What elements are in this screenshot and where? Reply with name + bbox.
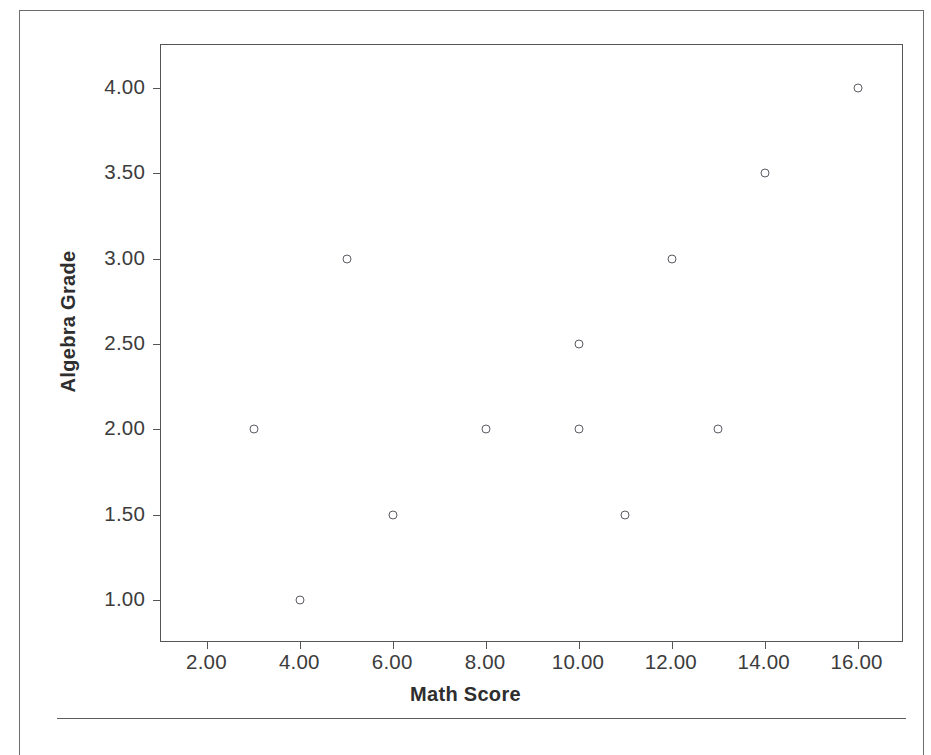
data-point bbox=[296, 596, 305, 605]
data-point bbox=[574, 425, 583, 434]
y-axis-tick bbox=[153, 88, 161, 89]
y-axis-tick bbox=[153, 515, 161, 516]
x-axis-tick bbox=[486, 641, 487, 649]
x-axis-tick-label: 16.00 bbox=[830, 650, 882, 674]
data-point bbox=[249, 425, 258, 434]
x-axis-title: Math Score bbox=[0, 683, 931, 706]
data-point bbox=[853, 83, 862, 92]
data-point bbox=[667, 254, 676, 263]
scatter-markers-layer bbox=[161, 45, 902, 641]
y-axis-tick bbox=[153, 259, 161, 260]
y-axis-tick-label: 2.00 bbox=[104, 416, 145, 440]
x-axis-tick bbox=[672, 641, 673, 649]
y-axis-tick bbox=[153, 173, 161, 174]
y-axis-tick bbox=[153, 600, 161, 601]
data-point bbox=[342, 254, 351, 263]
x-axis-tick-label: 8.00 bbox=[465, 650, 506, 674]
data-point bbox=[389, 510, 398, 519]
data-point bbox=[574, 340, 583, 349]
plot-area bbox=[160, 44, 903, 642]
y-axis-tick bbox=[153, 344, 161, 345]
y-axis-tick bbox=[153, 429, 161, 430]
y-axis-tick-label: 2.50 bbox=[104, 331, 145, 355]
x-axis-tick bbox=[765, 641, 766, 649]
x-axis-tick-label: 14.00 bbox=[738, 650, 790, 674]
y-axis-tick-label: 3.00 bbox=[104, 246, 145, 270]
x-axis-tick-label: 2.00 bbox=[186, 650, 227, 674]
x-axis-tick bbox=[207, 641, 208, 649]
x-axis-tick bbox=[300, 641, 301, 649]
data-point bbox=[482, 425, 491, 434]
x-axis-tick bbox=[858, 641, 859, 649]
data-point bbox=[621, 510, 630, 519]
x-axis-tick-label: 12.00 bbox=[645, 650, 697, 674]
y-axis-tick-label: 1.50 bbox=[104, 502, 145, 526]
page-footer-rule bbox=[57, 718, 906, 719]
data-point bbox=[714, 425, 723, 434]
y-axis-tick-label: 4.00 bbox=[104, 75, 145, 99]
x-axis-tick-label: 4.00 bbox=[279, 650, 320, 674]
x-axis-tick bbox=[579, 641, 580, 649]
x-axis-tick bbox=[393, 641, 394, 649]
data-point bbox=[760, 169, 769, 178]
y-axis-tick-label: 3.50 bbox=[104, 160, 145, 184]
x-axis-tick-label: 6.00 bbox=[372, 650, 413, 674]
y-axis-tick-label: 1.00 bbox=[104, 587, 145, 611]
x-axis-tick-labels: 2.004.006.008.0010.0012.0014.0016.00 bbox=[160, 650, 903, 684]
y-axis-title: Algebra Grade bbox=[57, 192, 80, 452]
x-axis-tick-label: 10.00 bbox=[552, 650, 604, 674]
